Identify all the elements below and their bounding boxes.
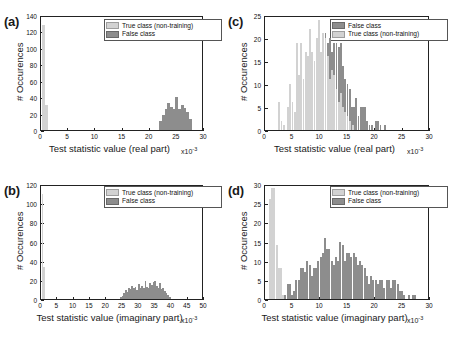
panel-label-c: (c): [228, 14, 243, 29]
x-tickmark-a: [67, 128, 68, 131]
x-tick-label-c: 30: [425, 133, 432, 140]
x-tick-label-a: 20: [145, 133, 152, 140]
x-tick-label-b: 30: [134, 302, 141, 309]
x-tick-label-c: 25: [398, 133, 405, 140]
legend-label: False class: [348, 22, 381, 30]
legend-item: True class (non-training): [106, 22, 219, 30]
x-axis-title-a: Test statistic value (real part): [49, 143, 170, 154]
x-tickmark-a: [94, 128, 95, 131]
x-tickmark-b: [56, 297, 57, 300]
x-tick-label-c: 10: [315, 133, 322, 140]
bar-true-c: [283, 125, 285, 130]
y-tick-label-d: 0: [246, 297, 261, 304]
panel-d: (d)051015202530051015202530Test statisti…: [226, 171, 452, 342]
legend-item: False class: [332, 22, 445, 30]
legend-swatch-false-class: [106, 31, 119, 38]
x-tick-label-a: 25: [172, 133, 179, 140]
bar-true-d: [282, 295, 284, 299]
y-tick-label-b: 20: [22, 277, 37, 284]
x-axis-exponent-c: x10-3: [407, 146, 423, 155]
y-tickmark-c: [265, 39, 268, 40]
bar-true-a: [45, 105, 48, 130]
y-tickmark-d: [265, 300, 268, 301]
bar-false-c: [371, 125, 373, 130]
legend-item: False class: [106, 197, 219, 205]
bar-false-d: [403, 295, 405, 299]
x-tickmark-a: [149, 128, 150, 131]
x-tick-label-c: 5: [290, 133, 294, 140]
legend-swatch-true-class: [106, 189, 119, 196]
y-tickmark-a: [41, 131, 44, 132]
x-tickmark-c: [429, 128, 430, 131]
legend-label: False class: [122, 197, 155, 205]
y-tickmark-d: [265, 262, 268, 263]
y-tickmark-c: [265, 62, 268, 63]
legend-label: False class: [122, 30, 155, 38]
x-tick-label-a: 30: [199, 133, 206, 140]
y-tick-label-b: 120: [22, 182, 37, 189]
x-axis-title-c: Test statistic value (real part): [274, 143, 395, 154]
bar-false-a: [189, 119, 192, 130]
y-tickmark-d: [265, 223, 268, 224]
bar-false-d: [408, 295, 410, 299]
panel-label-b: (b): [4, 183, 20, 198]
x-tick-label-a: 10: [91, 133, 98, 140]
figure-histograms-panel-grid: (a)051015202530020406080100120140Test st…: [0, 0, 452, 342]
legend-label: True class (non-training): [122, 189, 193, 197]
y-tick-label-c: 0: [246, 128, 261, 135]
x-tickmark-c: [402, 128, 403, 131]
legend-label: False class: [348, 197, 381, 205]
legend-label: True class (non-training): [348, 189, 419, 197]
legend-item: True class (non-training): [106, 189, 219, 197]
legend-swatch-false-class: [332, 22, 345, 29]
x-tick-label-c: 20: [370, 133, 377, 140]
y-axis-title-d: # Occurences: [238, 211, 249, 270]
x-tick-label-b: 5: [54, 302, 58, 309]
panel-label-d: (d): [228, 183, 244, 198]
legend-swatch-false-class: [332, 198, 345, 205]
legend-a: True class (non-training)False class: [104, 19, 222, 41]
panel-label-a: (a): [4, 14, 19, 29]
x-tickmark-b: [187, 297, 188, 300]
legend-label: True class (non-training): [348, 30, 419, 38]
bar-false-c: [384, 125, 386, 130]
legend-b: True class (non-training)False class: [104, 186, 222, 208]
bar-true-c: [349, 121, 351, 130]
y-tickmark-c: [265, 16, 268, 17]
y-tickmark-b: [41, 185, 44, 186]
y-tickmark-d: [265, 204, 268, 205]
x-axis-title-d: Test statistic value (imaginary part): [261, 312, 407, 323]
x-tick-label-d: 25: [398, 302, 405, 309]
x-tickmark-b: [203, 297, 204, 300]
x-tick-label-d: 20: [370, 302, 377, 309]
x-tick-label-d: 30: [425, 302, 432, 309]
y-tickmark-c: [265, 131, 268, 132]
y-tickmark-a: [41, 16, 44, 17]
x-axis-exponent-b: x10-3: [181, 315, 197, 324]
x-tick-label-b: 25: [118, 302, 125, 309]
x-tick-label-a: 0: [38, 133, 42, 140]
y-tickmark-c: [265, 108, 268, 109]
x-tick-label-b: 40: [167, 302, 174, 309]
x-tickmark-b: [73, 297, 74, 300]
bar-true-c: [352, 125, 354, 130]
x-tick-label-c: 0: [262, 133, 266, 140]
x-tick-label-d: 10: [315, 302, 322, 309]
x-tickmark-b: [89, 297, 90, 300]
legend-item: False class: [332, 197, 445, 205]
bar-true-b: [43, 267, 45, 299]
x-tick-label-b: 20: [102, 302, 109, 309]
y-tick-label-a: 120: [22, 29, 37, 36]
x-tick-label-b: 45: [183, 302, 190, 309]
y-axis-title-c: # Occurences: [238, 42, 249, 101]
x-axis-exponent-a: x10-3: [181, 146, 197, 155]
x-axis-exponent-d: x10-3: [407, 315, 423, 324]
panel-c: (c)0510152025300510152025Test statistic …: [226, 0, 452, 171]
panel-b: (b)05101520253035404550020406080100120Te…: [0, 171, 226, 342]
x-axis-title-b: Test statistic value (imaginary part): [36, 312, 182, 323]
bar-false-c: [380, 125, 382, 130]
y-tick-label-a: 0: [22, 128, 37, 135]
y-tickmark-c: [265, 85, 268, 86]
x-tickmark-a: [203, 128, 204, 131]
panel-a: (a)051015202530020406080100120140Test st…: [0, 0, 226, 171]
